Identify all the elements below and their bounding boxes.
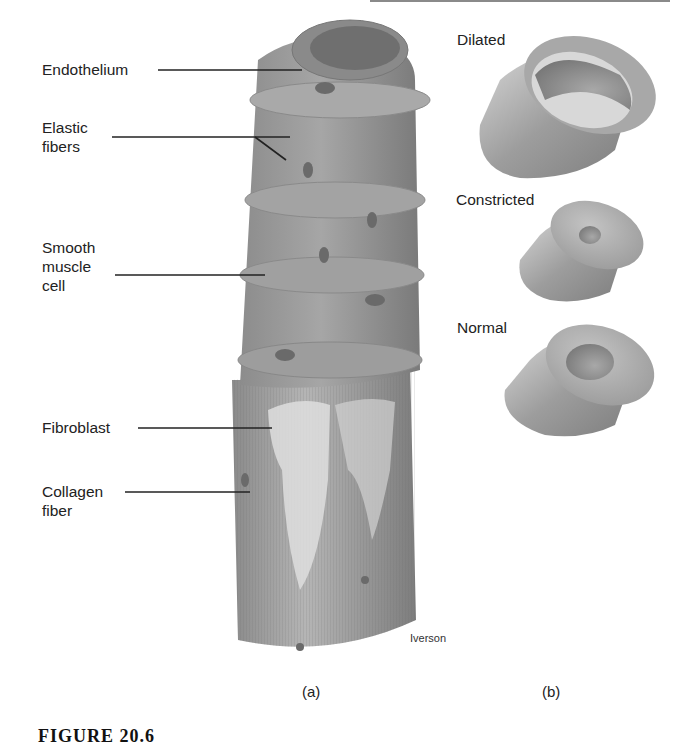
label-fibroblast: Fibroblast	[42, 418, 110, 437]
normal-vessel-shape	[505, 310, 666, 436]
artist-credit: Iverson	[410, 632, 446, 644]
panel-b-tag: (b)	[542, 683, 560, 700]
label-dilated: Dilated	[457, 30, 505, 49]
label-smooth-muscle-line2: muscle	[42, 257, 91, 276]
dilated-vessel-shape	[480, 19, 670, 179]
label-elastic-fibers-line2: fibers	[42, 137, 80, 156]
label-endothelium: Endothelium	[42, 60, 128, 79]
constricted-vessel-shape	[519, 189, 653, 302]
label-normal: Normal	[457, 318, 507, 337]
label-collagen-fiber-line1: Collagen	[42, 482, 103, 501]
label-constricted: Constricted	[456, 190, 534, 209]
label-elastic-fibers-line1: Elastic	[42, 118, 88, 137]
label-smooth-muscle-line3: cell	[42, 276, 65, 295]
label-collagen-fiber-line2: fiber	[42, 501, 72, 520]
vessel-illustration	[232, 20, 430, 651]
panel-a-tag: (a)	[302, 683, 320, 700]
figure-caption: FIGURE 20.6	[38, 726, 155, 746]
label-smooth-muscle-line1: Smooth	[42, 238, 95, 257]
